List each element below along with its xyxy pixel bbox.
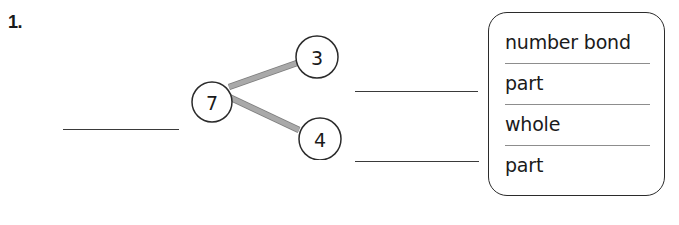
bond-connector-lower [229,97,299,130]
word-bank-item-label: part [505,74,543,93]
problem-number: 1. [8,13,22,31]
bond-part-value-top: 3 [311,47,323,69]
word-bank-item-part-2[interactable]: part [489,145,664,186]
bond-connector-upper [229,63,297,87]
word-bank-item-number-bond[interactable]: number bond [489,22,664,63]
number-bond-diagram: 7 3 4 [185,35,355,160]
whole-blank-line[interactable] [63,129,179,130]
word-bank-item-part-1[interactable]: part [489,63,664,104]
word-bank-item-whole[interactable]: whole [489,104,664,145]
part-blank-line-bottom[interactable] [355,161,479,162]
word-bank-item-label: part [505,156,543,175]
part-blank-line-top[interactable] [355,91,478,92]
word-bank-item-label: number bond [505,33,631,52]
word-bank: number bond part whole part [488,12,665,196]
word-bank-item-label: whole [505,115,560,134]
worksheet-problem: 1. 7 3 4 number bond part whole part [0,0,679,225]
bond-whole-value: 7 [206,92,218,114]
bond-part-value-bottom: 4 [314,129,326,151]
